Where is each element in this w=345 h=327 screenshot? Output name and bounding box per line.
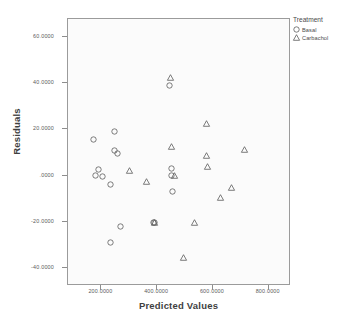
data-points-layer: [68, 19, 289, 284]
data-point-basal: [169, 188, 176, 195]
legend-item-label: Carbachol: [302, 35, 328, 41]
y-tick-label: 40.0000: [0, 79, 54, 85]
legend-item-label: Basal: [302, 27, 317, 33]
data-point-carbachol: [180, 254, 187, 261]
legend-title: Treatment: [293, 16, 345, 23]
x-tick-mark: [268, 285, 269, 290]
circle-marker-icon: [293, 26, 300, 33]
data-point-basal: [92, 172, 99, 179]
legend: Treatment BasalCarbachol: [293, 16, 345, 42]
plot-area: [67, 18, 290, 285]
y-tick-label: .0000: [0, 172, 54, 178]
data-point-carbachol: [143, 178, 150, 185]
data-point-carbachol: [126, 167, 133, 174]
legend-entries: BasalCarbachol: [293, 26, 345, 41]
data-point-carbachol: [203, 120, 210, 127]
data-point-basal: [107, 239, 114, 246]
triangle-marker-icon: [293, 34, 300, 41]
data-point-carbachol: [191, 219, 198, 226]
x-tick-mark: [212, 285, 213, 290]
data-point-carbachol: [151, 219, 158, 226]
data-point-basal: [117, 223, 124, 230]
data-point-carbachol: [228, 184, 235, 191]
data-point-basal: [90, 136, 97, 143]
data-point-basal: [114, 150, 121, 157]
data-point-basal: [99, 173, 106, 180]
data-point-carbachol: [217, 194, 224, 201]
y-tick-label: 60.0000: [0, 33, 54, 39]
scatterplot-chart: Residuals Predicted Values 60.000040.000…: [0, 0, 345, 327]
data-point-basal: [107, 181, 114, 188]
data-point-carbachol: [204, 163, 211, 170]
x-axis-title: Predicted Values: [67, 300, 290, 311]
data-point-basal: [111, 128, 118, 135]
x-tick-mark: [100, 285, 101, 290]
y-tick-label: 20.0000: [0, 125, 54, 131]
data-point-carbachol: [168, 143, 175, 150]
data-point-carbachol: [203, 152, 210, 159]
data-point-carbachol: [171, 172, 178, 179]
data-point-carbachol: [241, 146, 248, 153]
legend-item-carbachol: Carbachol: [293, 34, 345, 41]
y-tick-label: -20.0000: [0, 218, 54, 224]
data-point-carbachol: [167, 74, 174, 81]
x-tick-mark: [156, 285, 157, 290]
y-tick-label: -40.0000: [0, 264, 54, 270]
data-point-basal: [166, 82, 173, 89]
legend-item-basal: Basal: [293, 26, 345, 33]
